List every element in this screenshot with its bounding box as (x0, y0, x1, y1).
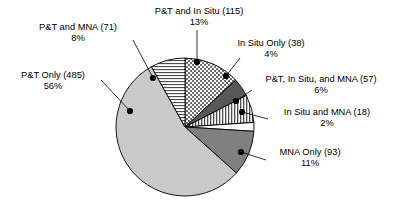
pie-slices-group (116, 58, 254, 196)
slice-label-line2: 11% (267, 158, 353, 169)
slice-marker-6 (150, 75, 156, 81)
slice-label-line1: P&T and In Situ (115) (144, 6, 254, 17)
slice-label-line1: P&T and MNA (71) (26, 22, 130, 33)
slice-marker-0 (194, 59, 200, 65)
slice-marker-2 (233, 98, 239, 104)
slice-marker-4 (238, 149, 244, 155)
slice-label-in-situ-only: In Situ Only (38) 4% (224, 38, 318, 61)
slice-label-pt-and-in-situ: P&T and In Situ (115) 13% (144, 6, 254, 29)
slice-marker-5 (127, 108, 133, 114)
slice-label-line2: 2% (269, 118, 385, 129)
pie-chart-figure: P&T and In Situ (115) 13% In Situ Only (… (0, 0, 398, 205)
slice-label-line1: P&T Only (485) (7, 70, 99, 81)
slice-label-line1: MNA Only (93) (267, 147, 353, 158)
slice-label-line1: In Situ Only (38) (224, 38, 318, 49)
slice-label-line1: P&T, In Situ, and MNA (57) (250, 74, 392, 85)
slice-label-line1: In Situ and MNA (18) (269, 107, 385, 118)
slice-label-pt-and-mna: P&T and MNA (71) 8% (26, 22, 130, 45)
slice-marker-3 (239, 109, 245, 115)
slice-label-in-situ-and-mna: In Situ and MNA (18) 2% (269, 107, 385, 130)
slice-label-pt-only: P&T Only (485) 56% (7, 70, 99, 93)
slice-label-line2: 6% (250, 85, 392, 96)
slice-label-pt-in-situ-and-mna: P&T, In Situ, and MNA (57) 6% (250, 74, 392, 97)
slice-label-line2: 13% (144, 17, 254, 28)
slice-label-mna-only: MNA Only (93) 11% (267, 147, 353, 170)
slice-label-line2: 4% (224, 49, 318, 60)
slice-label-line2: 8% (26, 33, 130, 44)
slice-label-line2: 56% (7, 81, 99, 92)
slice-marker-1 (223, 73, 229, 79)
